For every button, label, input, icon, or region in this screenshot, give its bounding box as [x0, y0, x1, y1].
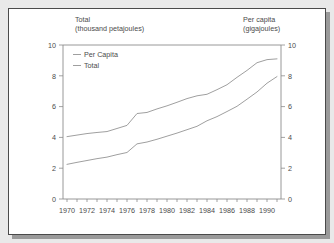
x-axis-tick-label: 1986 — [219, 206, 235, 215]
x-axis-tick-label: 1982 — [179, 206, 195, 215]
series-line-total — [67, 77, 277, 165]
figure-card: Total(thousand petajoules)Per capita(gig… — [8, 8, 326, 235]
right-axis-tick-label: 2 — [288, 164, 292, 173]
x-axis-tick-label: 1984 — [199, 206, 215, 215]
series-line-per-capita — [67, 59, 277, 137]
x-axis-tick-label: 1974 — [99, 206, 115, 215]
left-axis-tick-label: 0 — [52, 195, 56, 204]
legend-label-per-capita: Per Capita — [84, 50, 118, 59]
right-axis-tick-label: 8 — [288, 72, 292, 81]
right-axis-tick-label: 6 — [288, 102, 292, 111]
left-axis-tick-label: 10 — [48, 41, 56, 50]
right-axis-tick-label: 4 — [288, 133, 292, 142]
x-axis-tick-label: 1980 — [159, 206, 175, 215]
right-axis-tick-label: 10 — [288, 41, 296, 50]
x-axis-tick-label: 1978 — [139, 206, 155, 215]
right-axis-tick-label: 0 — [288, 195, 292, 204]
x-axis-tick-label: 1970 — [59, 206, 75, 215]
right-axis-title-line2: (gigajoules) — [243, 24, 280, 33]
left-axis-title-line2: (thousand petajoules) — [75, 24, 144, 33]
x-axis-tick-label: 1988 — [239, 206, 255, 215]
left-axis-tick-label: 2 — [52, 164, 56, 173]
left-axis-tick-label: 6 — [52, 102, 56, 111]
dual-axis-line-chart: Total(thousand petajoules)Per capita(gig… — [9, 9, 325, 234]
left-axis-tick-label: 8 — [52, 72, 56, 81]
legend-label-total: Total — [84, 61, 100, 70]
left-axis-title-line1: Total — [75, 15, 91, 24]
left-axis-tick-label: 4 — [52, 133, 56, 142]
x-axis-tick-label: 1972 — [79, 206, 95, 215]
right-axis-title-line1: Per capita — [243, 15, 275, 24]
x-axis-tick-label: 1976 — [119, 206, 135, 215]
figure-root: Total(thousand petajoules)Per capita(gig… — [0, 0, 334, 243]
x-axis-tick-label: 1990 — [259, 206, 275, 215]
